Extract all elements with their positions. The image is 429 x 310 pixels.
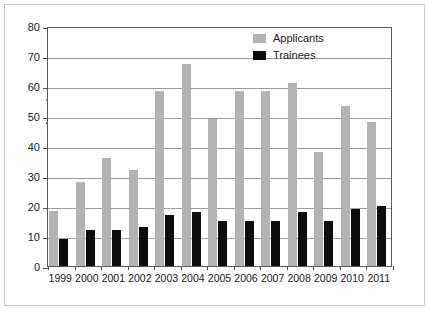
bar-applicants-2010 <box>341 106 350 267</box>
bar-group <box>207 28 234 266</box>
y-tick-label: 10 <box>28 230 40 245</box>
bar-group <box>48 28 75 266</box>
x-tick-mark <box>101 266 102 270</box>
legend-swatch-applicants <box>253 34 266 43</box>
x-tick-label-2006: 2006 <box>231 272 261 284</box>
x-tick-mark <box>287 266 288 270</box>
x-tick-mark <box>393 266 394 270</box>
x-tick-mark <box>75 266 76 270</box>
x-tick-label-2002: 2002 <box>125 272 155 284</box>
x-tick-label-2008: 2008 <box>284 272 314 284</box>
x-tick-mark <box>128 266 129 270</box>
x-tick-label-1999: 1999 <box>45 272 75 284</box>
legend-item-trainees: Trainees <box>253 48 324 63</box>
x-tick-mark <box>260 266 261 270</box>
bar-trainees-2002 <box>139 227 148 266</box>
bar-applicants-2009 <box>314 152 323 266</box>
bar-trainees-2007 <box>271 221 280 266</box>
bar-applicants-1999 <box>49 211 58 267</box>
bar-applicants-2007 <box>261 91 270 267</box>
x-tick-mark <box>234 266 235 270</box>
bar-trainees-1999 <box>59 239 68 266</box>
bar-trainees-2004 <box>192 212 201 266</box>
x-tick-mark <box>340 266 341 270</box>
bar-applicants-2000 <box>76 182 85 266</box>
bar-trainees-2009 <box>324 221 333 266</box>
bar-applicants-2001 <box>102 158 111 266</box>
x-tick-label-2007: 2007 <box>258 272 288 284</box>
x-tick-label-2004: 2004 <box>178 272 208 284</box>
bar-groups <box>48 28 391 266</box>
bar-trainees-2008 <box>298 212 307 266</box>
bar-trainees-2005 <box>218 221 227 266</box>
bar-trainees-2010 <box>351 209 360 266</box>
x-tick-mark <box>181 266 182 270</box>
x-tick-label-2009: 2009 <box>311 272 341 284</box>
bar-trainees-2011 <box>377 206 386 266</box>
x-tick-mark <box>48 266 49 270</box>
bar-applicants-2011 <box>367 122 376 266</box>
chart-figure: Numbers 01020304050607080 19992000200120… <box>0 0 429 310</box>
x-tick-label-2001: 2001 <box>98 272 128 284</box>
y-tick-label: 0 <box>34 260 40 275</box>
chart-legend: ApplicantsTrainees <box>253 31 324 65</box>
bar-applicants-2008 <box>288 83 297 266</box>
legend-swatch-trainees <box>253 51 266 60</box>
bar-trainees-2000 <box>86 230 95 266</box>
legend-label-applicants: Applicants <box>273 31 324 46</box>
y-tick-label: 60 <box>28 80 40 95</box>
bar-applicants-2006 <box>235 91 244 267</box>
bar-applicants-2005 <box>208 119 217 266</box>
bar-trainees-2006 <box>245 221 254 266</box>
y-tick-label: 30 <box>28 170 40 185</box>
bar-trainees-2001 <box>112 230 121 266</box>
legend-item-applicants: Applicants <box>253 31 324 46</box>
x-tick-label-2005: 2005 <box>205 272 235 284</box>
y-tick-label: 80 <box>28 20 40 35</box>
x-tick-mark <box>366 266 367 270</box>
bar-group <box>128 28 155 266</box>
bar-trainees-2003 <box>165 215 174 266</box>
bar-group <box>340 28 367 266</box>
bar-group <box>181 28 208 266</box>
x-tick-label-2003: 2003 <box>151 272 181 284</box>
y-tick-label: 20 <box>28 200 40 215</box>
x-tick-mark <box>313 266 314 270</box>
legend-label-trainees: Trainees <box>273 48 315 63</box>
y-tick-label: 50 <box>28 110 40 125</box>
x-tick-mark <box>207 266 208 270</box>
x-tick-mark <box>154 266 155 270</box>
bar-group <box>366 28 393 266</box>
x-tick-label-2010: 2010 <box>337 272 367 284</box>
y-tick-label: 40 <box>28 140 40 155</box>
bar-group <box>101 28 128 266</box>
y-tick-label: 70 <box>28 50 40 65</box>
plot-area: 01020304050607080 <box>47 27 392 267</box>
bar-applicants-2004 <box>182 64 191 267</box>
bar-applicants-2002 <box>129 170 138 266</box>
bar-group <box>75 28 102 266</box>
x-tick-label-2011: 2011 <box>364 272 394 284</box>
bar-applicants-2003 <box>155 91 164 267</box>
bar-group <box>154 28 181 266</box>
x-tick-label-2000: 2000 <box>72 272 102 284</box>
